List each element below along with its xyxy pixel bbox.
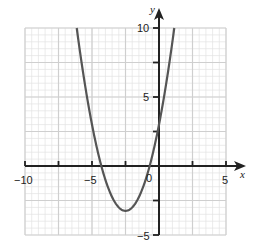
- x-tick-label-neg5: −5: [84, 174, 97, 186]
- x-tick-label-5: 5: [222, 174, 228, 186]
- y-tick-label-10: 10: [137, 22, 149, 34]
- y-tick-label-neg5: −5: [137, 230, 150, 242]
- grid-major: [25, 28, 226, 235]
- x-tick-label-0: 0: [146, 172, 152, 184]
- y-axis-label: y: [149, 3, 155, 15]
- x-axis-label: x: [239, 168, 245, 180]
- x-tick-label-neg10: −10: [14, 174, 33, 186]
- chart: y x −10 −5 0 5 10 5 −5: [0, 0, 258, 250]
- y-tick-label-5: 5: [143, 91, 149, 103]
